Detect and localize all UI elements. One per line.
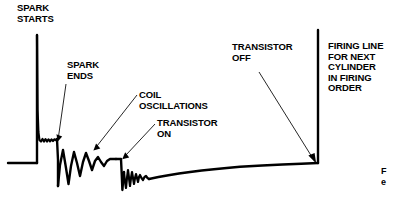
arrowhead-coil-oscillations — [93, 144, 100, 151]
leader-line-transistor-on — [126, 124, 155, 155]
trace-transistor-on-drop — [116, 159, 124, 190]
label-coil-oscillations: COIL OSCILLATIONS — [139, 90, 208, 111]
label-transistor-off: TRANSISTOR OFF — [232, 42, 293, 63]
arrowhead-transistor-on — [122, 152, 129, 159]
ignition-waveform-figure: SPARK STARTS SPARK ENDS COIL OSCILLATION… — [0, 0, 393, 204]
trace-dwell-curve — [149, 163, 318, 179]
label-spark-ends: SPARK ENDS — [67, 60, 99, 81]
caption-fragment: F e — [381, 166, 393, 200]
leader-line-coil-oscillations — [97, 95, 137, 146]
trace-coil-oscillations — [58, 150, 116, 186]
label-transistor-on: TRANSISTOR ON — [157, 118, 218, 139]
label-spark-starts: SPARK STARTS — [17, 3, 54, 24]
trace-spark-line-plateau — [37, 35, 57, 142]
leader-line-transistor-off — [259, 72, 312, 157]
arrowhead-transistor-off — [308, 153, 316, 163]
trace-dwell-ringing — [124, 170, 149, 188]
label-firing-line: FIRING LINE FOR NEXT CYLINDER IN FIRING … — [328, 41, 383, 94]
leader-line-spark-ends — [59, 84, 67, 137]
